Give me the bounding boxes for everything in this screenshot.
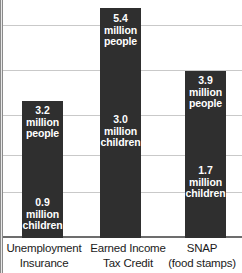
x-axis-label-line-1: Unemployment xyxy=(0,241,88,256)
bar-label-children-unemployment-insurance: 0.9 million children xyxy=(22,197,63,232)
bar-label-children-snap: 1.7 million children xyxy=(185,165,226,200)
bar-snap[interactable]: 3.9 million people 1.7 million children xyxy=(185,71,226,238)
value-total: 3.2 xyxy=(22,105,63,117)
value-children: 3.0 xyxy=(100,114,141,126)
bar-label-total-unemployment-insurance: 3.2 million people xyxy=(22,105,63,140)
x-axis-labels: Unemployment Insurance Earned Income Tax… xyxy=(0,239,242,273)
group-total: people xyxy=(22,128,63,140)
group-children: children xyxy=(185,188,226,200)
group-total: people xyxy=(100,36,141,48)
x-axis-label-earned-income-tax-credit: Earned Income Tax Credit xyxy=(83,241,173,271)
value-total: 3.9 xyxy=(185,75,226,87)
value-children: 0.9 xyxy=(22,197,63,209)
group-total: people xyxy=(185,98,226,110)
x-axis-label-line-2: (food stamps) xyxy=(162,256,242,271)
bar-chart: 3.2 million people 0.9 million children … xyxy=(0,0,242,273)
x-axis-label-line-2: Tax Credit xyxy=(83,256,173,271)
x-axis-label-line-1: SNAP xyxy=(162,241,242,256)
x-axis-label-snap: SNAP (food stamps) xyxy=(162,241,242,271)
bar-label-children-earned-income-tax-credit: 3.0 million children xyxy=(100,114,141,149)
group-children: children xyxy=(100,137,141,149)
bar-unemployment-insurance[interactable]: 3.2 million people 0.9 million children xyxy=(22,101,63,238)
x-axis-label-line-2: Insurance xyxy=(0,256,88,271)
value-children: 1.7 xyxy=(185,165,226,177)
x-axis-label-unemployment-insurance: Unemployment Insurance xyxy=(0,241,88,271)
bar-label-total-snap: 3.9 million people xyxy=(185,75,226,110)
bar-label-total-earned-income-tax-credit: 5.4 million people xyxy=(100,13,141,48)
x-axis-label-line-1: Earned Income xyxy=(83,241,173,256)
bar-earned-income-tax-credit[interactable]: 5.4 million people 3.0 million children xyxy=(100,8,141,238)
chart-left-border-highlight xyxy=(1,0,2,273)
group-children: children xyxy=(22,220,63,232)
value-total: 5.4 xyxy=(100,13,141,25)
plot-area: 3.2 million people 0.9 million children … xyxy=(3,0,242,238)
